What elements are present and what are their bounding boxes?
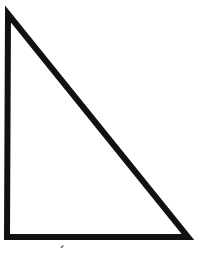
label-mark: ´ — [58, 244, 65, 259]
triangle-diagram — [0, 0, 207, 259]
right-triangle — [7, 14, 188, 237]
